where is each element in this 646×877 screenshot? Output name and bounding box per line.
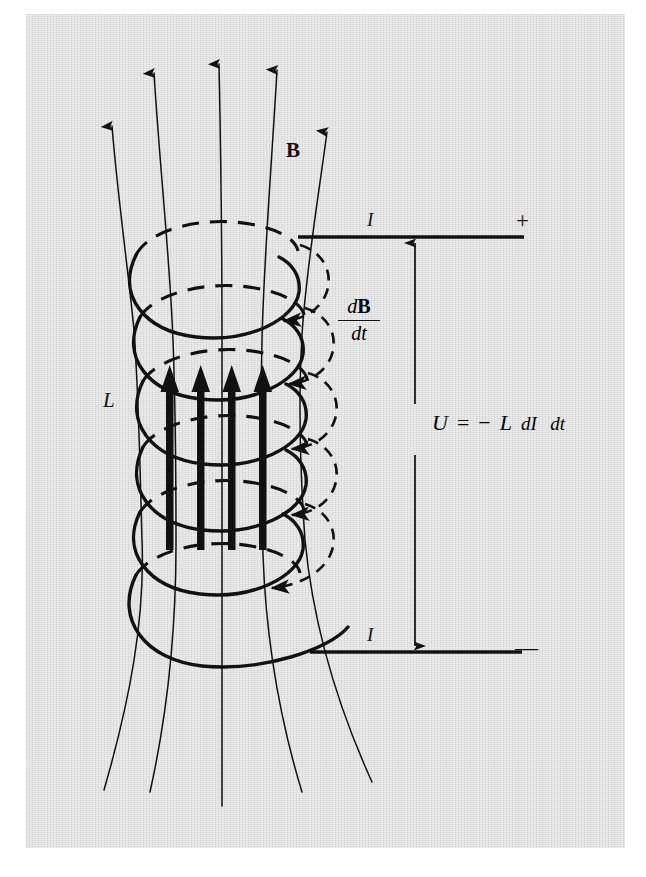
positive-terminal-label: + [516,209,529,232]
flux-rate-variable: B [357,295,370,317]
differential-d-symbol: d [347,295,357,317]
inductance-label: L [103,390,115,411]
coil-back-arc-1 [136,222,298,255]
fraction-bar [338,320,380,321]
formula-inductance-L: L [500,410,512,436]
coil-turn-1 [130,255,300,338]
field-line-1 [104,126,142,790]
field-line-5 [300,132,372,782]
magnetic-field-label: B [286,140,300,161]
field-line-4 [261,70,302,792]
field-line-3 [219,64,222,806]
flux-arrow-2 [192,365,211,550]
coil-turn-2 [134,317,304,400]
solenoid-diagram [0,0,646,877]
formula-quantity-U: U [432,410,448,436]
flux-rate-numerator: dB [332,296,386,318]
current-rate-fraction: dI dt [521,410,565,436]
current-label-bottom: I [367,625,373,644]
current-rate-denominator: dt [550,413,565,434]
negative-terminal-label: — [515,636,538,659]
flux-arrow-3 [223,365,242,550]
formula-negative-sign: − [478,410,490,436]
flux-rate-denominator: dt [332,323,386,345]
coil-back-arc-6 [136,544,300,575]
figure-root: B L I I + — dB dt U = − L dI dt [0,0,646,877]
current-rate-numerator: dI [521,413,537,434]
current-label-top: I [367,210,373,229]
formula-equals-sign: = [457,410,469,436]
induced-voltage-formula: U = − L dI dt [432,410,565,436]
flux-rate-fraction: dB dt [332,296,386,344]
